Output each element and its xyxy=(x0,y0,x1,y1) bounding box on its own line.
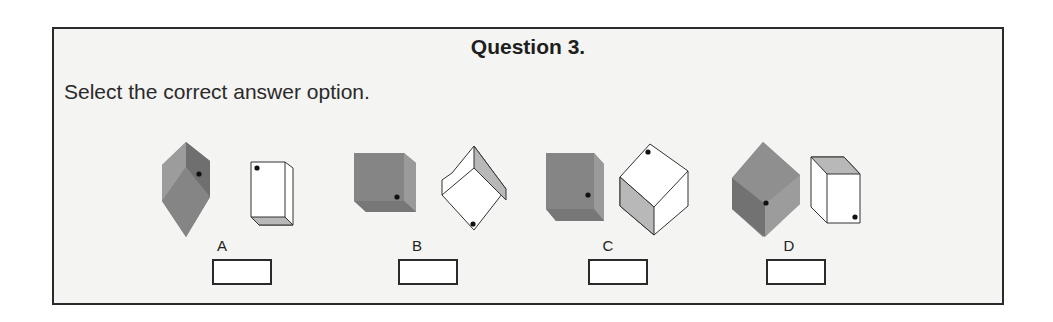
option-b: B xyxy=(354,139,514,289)
option-c-label: C xyxy=(588,237,628,254)
option-a-cubes-figure xyxy=(162,139,322,239)
option-a: A xyxy=(162,139,322,289)
option-a-answer-box[interactable] xyxy=(212,259,272,285)
option-d-label: D xyxy=(769,237,809,254)
option-c: C xyxy=(542,139,702,289)
question-prompt: Select the correct answer option. xyxy=(64,80,370,104)
option-b-answer-box[interactable] xyxy=(398,259,458,285)
option-a-label: A xyxy=(202,237,242,254)
question-title: Question 3. xyxy=(54,35,1002,59)
option-c-answer-box[interactable] xyxy=(588,259,648,285)
option-d-answer-box[interactable] xyxy=(766,259,826,285)
option-c-cubes-figure xyxy=(542,139,702,239)
option-d-cubes-figure xyxy=(729,139,889,239)
question-panel: Question 3. Select the correct answer op… xyxy=(52,27,1004,305)
option-b-cubes-figure xyxy=(354,139,514,239)
option-b-label: B xyxy=(397,237,437,254)
option-d: D xyxy=(729,139,889,289)
